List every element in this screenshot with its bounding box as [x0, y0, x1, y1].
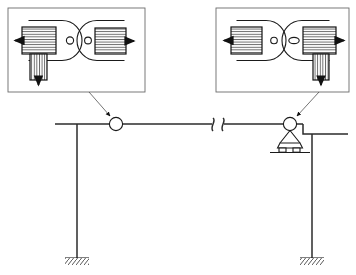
right-bearing-pedestal	[278, 143, 303, 148]
right-ground-support	[300, 258, 324, 265]
right-detail-left-block	[231, 27, 262, 54]
left-bearing-pin[interactable]	[109, 117, 122, 130]
right-ground-hatch	[300, 258, 324, 265]
right-bearing-rocker-pin[interactable]	[283, 117, 296, 130]
left-ground-support	[65, 258, 89, 265]
left-detail-box[interactable]	[8, 8, 145, 92]
diagram-canvas	[0, 0, 356, 275]
left-detail-left-pivot-hole	[66, 37, 73, 44]
left-leader-line	[89, 92, 110, 116]
structure-group	[55, 117, 348, 265]
left-detail-right-block	[95, 28, 126, 54]
right-bearing-roller-right	[293, 148, 300, 152]
left-ground-hatch	[65, 258, 89, 265]
right-detail-right-block	[303, 27, 336, 54]
beam-step-notch	[303, 124, 348, 134]
left-detail-left-block	[22, 27, 56, 54]
right-bearing-roller-left	[279, 148, 286, 152]
right-detail-left-pivot-hole	[271, 37, 278, 44]
right-detail-right-pivot-slot	[289, 37, 299, 43]
right-leader-line	[297, 92, 319, 116]
break-symbol-left	[212, 118, 214, 131]
break-symbol-right	[222, 118, 224, 131]
left-detail-right-pivot-hole	[85, 37, 92, 44]
right-detail-box[interactable]	[216, 8, 349, 92]
technical-drawing	[0, 0, 356, 275]
right-bearing-rocker-legs	[280, 131, 300, 144]
